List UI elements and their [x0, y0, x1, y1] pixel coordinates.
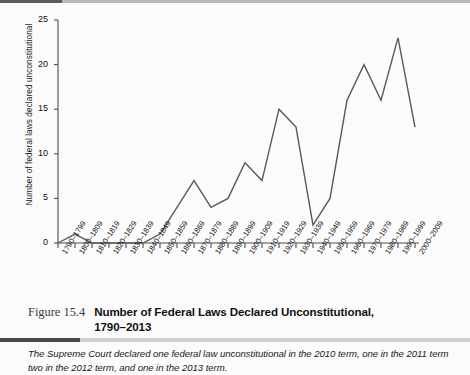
- y-tick-label: 20: [22, 59, 48, 69]
- y-tick-label: 10: [22, 148, 48, 158]
- top-divider: [0, 0, 470, 3]
- figure-number: Figure 15.4: [28, 304, 94, 320]
- figure-title-line1: Number of Federal Laws Declared Unconsti…: [94, 305, 374, 318]
- chart-area: Number of federal laws declared unconsti…: [0, 6, 470, 306]
- y-tick-label: 25: [22, 14, 48, 24]
- y-tick-label: 5: [22, 192, 48, 202]
- caption-band: Figure 15.4 Number of Federal Laws Decla…: [0, 300, 470, 340]
- caption-row: Figure 15.4 Number of Federal Laws Decla…: [28, 304, 456, 335]
- figure-footnote: The Supreme Court declared one federal l…: [28, 347, 452, 375]
- line-chart-plot: [0, 6, 470, 306]
- y-tick-label: 15: [22, 103, 48, 113]
- figure-title: Number of Federal Laws Declared Unconsti…: [94, 304, 374, 335]
- figure-page: Number of federal laws declared unconsti…: [0, 0, 470, 375]
- figure-title-line2: 1790–2013: [94, 320, 151, 333]
- y-tick-label: 0: [22, 237, 48, 247]
- caption-divider-accent: [0, 338, 80, 342]
